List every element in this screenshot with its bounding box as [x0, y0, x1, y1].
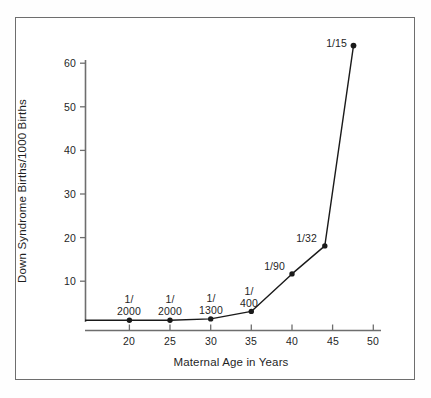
- x-axis-title: Maternal Age in Years: [173, 356, 288, 368]
- annotation-age-20: 1/2000: [117, 294, 141, 317]
- x-tick-label-35: 35: [245, 335, 257, 347]
- data-point-age-35: [249, 309, 254, 314]
- annotation-age-20-line2: 2000: [117, 305, 141, 317]
- y-tick-label-50: 50: [56, 101, 76, 113]
- annotation-age-30-line1: 1/: [207, 292, 216, 304]
- y-axis-title: Down Syndrome Births/1000 Births: [16, 99, 28, 283]
- y-tick-label-60: 60: [56, 57, 76, 69]
- y-tick-label-20: 20: [56, 232, 76, 244]
- x-tick-label-40: 40: [286, 335, 298, 347]
- annotation-age-47: 1/15: [315, 38, 347, 50]
- annotation-age-40: 1/90: [253, 261, 285, 273]
- data-point-age-44: [322, 243, 327, 248]
- data-series-line: [85, 46, 354, 321]
- data-point-age-30: [208, 316, 213, 321]
- annotation-age-35: 1/400: [240, 286, 258, 309]
- annotation-age-30: 1/1300: [199, 293, 223, 316]
- y-tick-label-30: 30: [56, 188, 76, 200]
- annotation-age-30-line2: 1300: [199, 304, 223, 316]
- annotation-age-44: 1/32: [285, 233, 317, 245]
- y-tick-label-10: 10: [56, 275, 76, 287]
- data-point-age-20: [127, 318, 132, 323]
- figure-container: 60 50 40 30 20 10 20 25 30 35 40 45 50 D…: [0, 0, 431, 398]
- data-point-age-40: [289, 271, 294, 276]
- x-tick-label-45: 45: [327, 335, 339, 347]
- x-tick-label-25: 25: [164, 335, 176, 347]
- annotation-age-25-line1: 1/: [166, 293, 175, 305]
- x-tick-label-50: 50: [367, 335, 379, 347]
- annotation-age-25-line2: 2000: [158, 305, 182, 317]
- data-point-age-47: [351, 43, 357, 49]
- y-tick-label-40: 40: [56, 144, 76, 156]
- data-point-age-25: [167, 318, 172, 323]
- annotation-age-25: 1/2000: [158, 294, 182, 317]
- annotation-age-20-line1: 1/: [125, 293, 134, 305]
- annotation-age-35-line1: 1/: [245, 285, 254, 297]
- x-tick-label-20: 20: [123, 335, 135, 347]
- x-tick-label-30: 30: [205, 335, 217, 347]
- annotation-age-35-line2: 400: [240, 297, 258, 309]
